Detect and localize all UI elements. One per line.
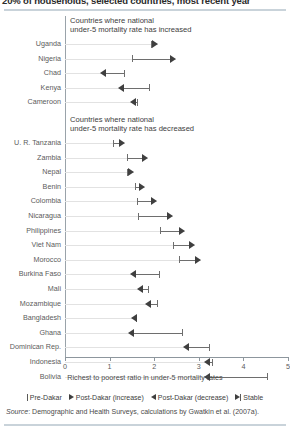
- pre-dakar-marker: [212, 359, 213, 366]
- post-dakar-marker-decrease: [118, 84, 124, 92]
- bottom-divider: [4, 424, 286, 426]
- pre-dakar-marker: [137, 198, 138, 205]
- chart-row: Nepal: [0, 166, 290, 178]
- row-label-uganda: Uganda: [0, 38, 61, 50]
- row-guide-line: [65, 102, 137, 103]
- pre-dakar-marker: [159, 271, 160, 278]
- row-connector: [189, 347, 209, 348]
- row-guide-line: [65, 304, 157, 305]
- post-dakar-marker-increase: [142, 154, 148, 162]
- pre-dakar-marker: [135, 183, 136, 190]
- pre-dakar-marker: [182, 329, 183, 336]
- chart-row: Nigeria: [0, 53, 290, 65]
- chart-row: Bangladesh: [0, 312, 290, 324]
- row-label-colombia: Colombia: [0, 195, 61, 207]
- pre-dakar-marker: [149, 84, 150, 91]
- post-dakar-marker-decrease: [131, 314, 137, 322]
- x-tick: [154, 357, 155, 361]
- figure-title: 20% of households, selected countries, m…: [0, 0, 290, 7]
- x-tick-label: 4: [233, 362, 253, 371]
- chart-row: Nicaragua: [0, 210, 290, 222]
- pre-dakar-marker: [124, 70, 125, 77]
- row-label-bangladesh: Bangladesh: [0, 312, 61, 324]
- chart-row: Burkina Faso: [0, 268, 290, 280]
- row-connector: [136, 274, 159, 275]
- post-dakar-marker-decrease: [130, 270, 136, 278]
- chart-row: Uganda: [0, 38, 290, 50]
- pre-dakar-bar-icon: [27, 394, 28, 401]
- top-divider: [4, 9, 286, 11]
- row-connector: [179, 260, 194, 261]
- x-axis-line: [65, 357, 288, 358]
- chart-row: Ghana: [0, 327, 290, 339]
- legend-item: Post-Dakar (decrease): [151, 394, 228, 401]
- x-tick: [199, 357, 200, 361]
- panel-header-decreased-line1: Countries where national: [70, 115, 194, 124]
- row-connector: [160, 231, 179, 232]
- row-connector: [173, 245, 189, 246]
- post-dakar-marker-decrease: [130, 98, 136, 106]
- pre-dakar-marker: [173, 242, 174, 249]
- chart-legend: Pre-DakarPost-Dakar (increase)Post-Dakar…: [0, 391, 290, 403]
- pre-dakar-marker: [209, 344, 210, 351]
- row-label-ghana: Ghana: [0, 327, 61, 339]
- post-dakar-marker-increase: [152, 40, 158, 48]
- x-tick-label: 2: [144, 362, 164, 371]
- x-tick: [288, 357, 289, 361]
- row-label-cameroon: Cameroon: [0, 96, 61, 108]
- source-text: : Demographic and Health Surveys, calcul…: [28, 408, 259, 415]
- row-label-nigeria: Nigeria: [0, 53, 61, 65]
- panel-header-decreased: Countries where national under-5 mortali…: [70, 115, 194, 134]
- post-dakar-marker-increase: [167, 212, 173, 220]
- chart-row: Zambia: [0, 152, 290, 164]
- pre-dakar-marker: [137, 99, 138, 106]
- panel-header-increased-line2: under-5 mortality rate has increased: [70, 25, 192, 34]
- chart-plot-area: Countries where national under-5 mortali…: [0, 14, 290, 359]
- panel-header-increased-line1: Countries where national: [70, 16, 192, 25]
- row-connector: [127, 158, 142, 159]
- row-label-kenya: Kenya: [0, 82, 61, 94]
- x-tick: [243, 357, 244, 361]
- post-dakar-marker-increase: [189, 241, 195, 249]
- chart-row: Philippines: [0, 225, 290, 237]
- row-connector: [124, 88, 149, 89]
- source-note: Source: Demographic and Health Surveys, …: [6, 408, 286, 415]
- row-guide-line: [65, 44, 158, 45]
- pre-dakar-marker: [157, 300, 158, 307]
- row-guide-line: [65, 187, 145, 188]
- chart-row: Mali: [0, 283, 290, 295]
- row-connector: [132, 59, 170, 60]
- row-connector: [138, 216, 167, 217]
- x-tick-label: 3: [189, 362, 209, 371]
- post-dakar-marker-decrease: [128, 329, 134, 337]
- pre-dakar-marker: [113, 140, 114, 147]
- arrow-right-icon: [69, 394, 74, 400]
- legend-item: Post-Dakar (increase): [69, 394, 144, 401]
- row-label-zambia: Zambia: [0, 152, 61, 164]
- post-dakar-marker-decrease: [145, 300, 151, 308]
- chart-row: Dominican Rep.: [0, 341, 290, 353]
- chart-row: Morocco: [0, 254, 290, 266]
- legend-label: Stable: [243, 394, 263, 401]
- row-connector: [106, 73, 124, 74]
- chart-row: U. R. Tanzania: [0, 137, 290, 149]
- post-dakar-marker-increase: [151, 197, 157, 205]
- row-label-nepal: Nepal: [0, 166, 61, 178]
- post-dakar-marker-increase: [195, 256, 201, 264]
- post-dakar-marker-increase: [179, 227, 185, 235]
- chart-row: Colombia: [0, 195, 290, 207]
- post-dakar-marker-decrease: [183, 343, 189, 351]
- row-guide-line: [65, 172, 134, 173]
- post-dakar-marker-increase: [139, 183, 145, 191]
- stable-arrow-bar-icon: [235, 394, 241, 401]
- legend-label: Pre-Dakar: [30, 394, 62, 401]
- legend-label: Post-Dakar (decrease): [158, 394, 228, 401]
- row-label-u-r-tanzania: U. R. Tanzania: [0, 137, 61, 149]
- chart-row: Kenya: [0, 82, 290, 94]
- row-connector: [134, 333, 182, 334]
- row-connector: [137, 201, 151, 202]
- x-tick-label: 1: [100, 362, 120, 371]
- pre-dakar-marker: [138, 213, 139, 220]
- x-axis-title: Richest to poorest ratio in under-5 mort…: [0, 373, 290, 382]
- legend-label: Post-Dakar (increase): [76, 394, 144, 401]
